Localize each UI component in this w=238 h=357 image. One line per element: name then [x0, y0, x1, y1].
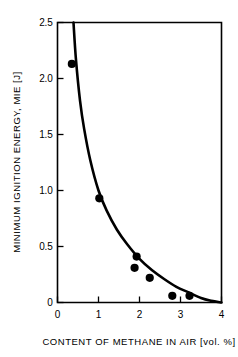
- y-tick-label: 2.5: [39, 17, 53, 28]
- y-tick-label: 2.0: [39, 73, 53, 84]
- y-tick-label: 1.5: [39, 129, 53, 140]
- data-point: [133, 252, 141, 260]
- figure-background: [0, 0, 238, 357]
- x-tick-label: 0: [55, 309, 61, 320]
- x-axis-title: CONTENT OF METHANE IN AIR [vol. %]: [42, 336, 235, 347]
- x-tick-label: 2: [137, 309, 143, 320]
- data-point: [68, 60, 76, 68]
- chart-figure: 01234 00.51.01.52.02.5 CONTENT OF METHAN…: [0, 0, 238, 357]
- x-tick-label: 1: [96, 309, 102, 320]
- data-point: [146, 274, 154, 282]
- y-tick-label: 0.5: [39, 241, 53, 252]
- chart-svg: 01234 00.51.01.52.02.5 CONTENT OF METHAN…: [0, 0, 238, 357]
- data-point: [95, 194, 103, 202]
- x-tick-label: 3: [178, 309, 184, 320]
- data-point: [130, 264, 138, 272]
- data-point: [185, 292, 193, 300]
- x-tick-label: 4: [219, 309, 225, 320]
- y-tick-label: 1.0: [39, 185, 53, 196]
- y-axis-title: MINIMUM IGNITION ENERGY, MIE [J]: [11, 71, 22, 253]
- y-tick-label: 0: [47, 297, 53, 308]
- data-point: [168, 292, 176, 300]
